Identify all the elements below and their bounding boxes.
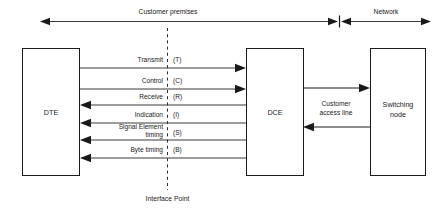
- network-left-arrowhead: [341, 18, 351, 25]
- signal-line-signal-element-timing: Signal Element timing (S): [80, 123, 246, 144]
- dce-label: DCE: [267, 108, 282, 117]
- signal-label-signal-element-timing-line2: timing: [145, 131, 163, 139]
- switching-node: Switching node: [371, 49, 426, 176]
- signal-label-control: Control: [142, 77, 164, 84]
- dce-node: DCE: [247, 49, 304, 176]
- signal-line-byte-timing-arrowhead: [80, 154, 91, 162]
- signal-label-receive: Receive: [139, 93, 163, 100]
- dte-label: DTE: [44, 108, 59, 117]
- signal-line-transmit-arrowhead: [235, 64, 246, 72]
- customer-access-link: Customer access line: [303, 84, 370, 131]
- switching-node-label-line2: node: [390, 110, 406, 119]
- signal-line-indication: Indication (I): [80, 111, 246, 127]
- interface-point-label: Interface Point: [146, 195, 190, 202]
- network-label: Network: [374, 8, 400, 15]
- signal-line-byte-timing: Byte timing (B): [80, 146, 246, 162]
- customer-access-line-label-line1: Customer: [322, 100, 352, 107]
- customer-premises-left-arrowhead: [40, 18, 50, 25]
- signal-label-indication: Indication: [135, 111, 164, 118]
- signal-line-receive: Receive (R): [80, 93, 246, 109]
- signal-code-signal-element-timing: (S): [173, 129, 182, 137]
- signal-label-byte-timing: Byte timing: [130, 146, 163, 154]
- access-link-inbound-arrowhead: [303, 123, 314, 131]
- customer-premises-right-arrowhead: [328, 18, 338, 25]
- signal-line-control-arrowhead: [235, 85, 246, 93]
- signal-line-indication-arrowhead: [80, 119, 91, 127]
- network-interface-diagram: Customer premises Network Interface Poin…: [0, 0, 445, 212]
- zone-extent-bar: Customer premises Network: [40, 8, 431, 28]
- signal-line-transmit: Transmit (T): [80, 56, 246, 72]
- signal-code-transmit: (T): [173, 56, 181, 64]
- signal-line-control: Control (C): [80, 77, 246, 93]
- customer-access-line-label-line2: access line: [319, 109, 352, 116]
- signal-code-byte-timing: (B): [173, 146, 182, 154]
- signal-label-transmit: Transmit: [138, 56, 164, 63]
- diagram-canvas: Customer premises Network Interface Poin…: [0, 0, 445, 212]
- signal-line-signal-element-timing-arrowhead: [80, 136, 91, 144]
- signal-line-receive-arrowhead: [80, 101, 91, 109]
- switching-node-label-line1: Switching: [383, 100, 414, 109]
- network-right-arrowhead: [421, 18, 431, 25]
- signal-code-indication: (I): [173, 111, 179, 119]
- signal-code-control: (C): [173, 77, 182, 85]
- customer-premises-label: Customer premises: [139, 8, 199, 16]
- access-link-outbound-arrowhead: [359, 84, 370, 92]
- signal-code-receive: (R): [173, 93, 182, 101]
- dte-node: DTE: [23, 49, 80, 176]
